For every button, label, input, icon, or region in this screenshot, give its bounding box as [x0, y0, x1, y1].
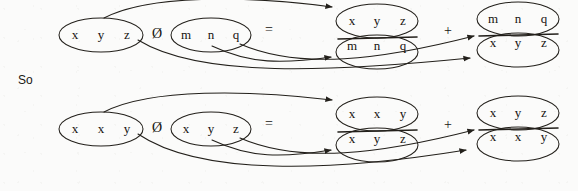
figure-page: x y z Ø m n q = x y z m n q +	[0, 0, 578, 191]
tuple-cell: y	[374, 131, 381, 146]
tuple-cell: y	[124, 121, 131, 136]
tuple-cell: z	[124, 27, 130, 42]
tuple-cell: x	[490, 105, 497, 120]
tuple-cell: y	[208, 121, 215, 136]
row-2-left-operand[interactable]: x x y	[59, 112, 143, 146]
tuple-cell: m	[181, 27, 191, 42]
tuple-cell: n	[208, 27, 215, 42]
tuple-cell: x	[349, 131, 356, 146]
tuple-cell: m	[488, 11, 498, 26]
tuple-cell: x	[98, 121, 105, 136]
plus-operator: +	[444, 23, 452, 38]
equals-operator: =	[265, 116, 273, 131]
connector-t1-to-t3	[104, 0, 332, 18]
tuple-cell: n	[515, 11, 522, 26]
row-2-right-operand[interactable]: x y z	[171, 112, 251, 146]
so-label: So	[18, 73, 33, 87]
tuple-cell: x	[72, 121, 79, 136]
equals-operator: =	[265, 22, 273, 37]
tuple-cell: z	[233, 121, 239, 136]
tuple-cell: z	[541, 105, 547, 120]
tuple-cell: y	[374, 13, 381, 28]
tuple-cell: x	[72, 27, 79, 42]
tuple-cell: x	[515, 129, 522, 144]
connector-b2-to-b5	[240, 130, 474, 153]
connector-t1-to-t6	[138, 40, 470, 69]
row-1-term-1[interactable]: x y z m n q	[336, 4, 418, 69]
tuple-cell: x	[349, 106, 356, 121]
tuple-cell: x	[349, 13, 356, 28]
concat-operator: Ø	[152, 120, 162, 135]
tuple-cell: m	[347, 38, 357, 53]
tuple-cell: z	[541, 35, 547, 50]
concat-operator: Ø	[152, 26, 162, 41]
tuple-cell: n	[374, 38, 381, 53]
tuple-cell: q	[233, 27, 240, 42]
tuple-cell: z	[400, 13, 406, 28]
tuple-cell: x	[490, 129, 497, 144]
tuple-cell: x	[490, 35, 497, 50]
tuple-cell: q	[541, 11, 548, 26]
tuple-cell: x	[374, 106, 381, 121]
tuple-composition-diagram: x y z Ø m n q = x y z m n q +	[0, 0, 578, 191]
tuple-cell: y	[515, 35, 522, 50]
row-1-right-operand[interactable]: m n q	[171, 18, 251, 52]
row-2-term-2[interactable]: x y z x x y	[477, 96, 559, 161]
tuple-cell: q	[400, 38, 407, 53]
plus-operator: +	[444, 117, 452, 132]
tuple-cell: y	[98, 27, 105, 42]
tuple-cell: x	[183, 121, 190, 136]
row-1-left-operand[interactable]: x y z	[59, 18, 143, 52]
row-1-term-2[interactable]: m n q x y z	[477, 2, 559, 67]
connector-b1-to-b3	[104, 93, 332, 112]
tuple-cell: y	[541, 129, 548, 144]
tuple-cell: y	[515, 105, 522, 120]
tuple-cell: z	[400, 131, 406, 146]
tuple-cell: y	[400, 106, 407, 121]
